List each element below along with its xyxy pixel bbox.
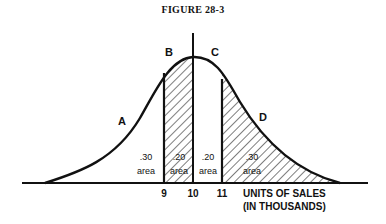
- curve-label-d: D: [259, 111, 267, 123]
- tick-11: 11: [217, 188, 228, 199]
- figure-title: FIGURE 28-3: [161, 4, 224, 15]
- x-axis-label-line1: UNITS OF SALES: [243, 188, 326, 199]
- region-3-value: .20: [202, 152, 215, 162]
- curve-label-a: A: [118, 115, 126, 127]
- curve-label-b: B: [165, 46, 173, 58]
- region-1-value: .30: [140, 152, 153, 162]
- tick-10: 10: [187, 188, 199, 199]
- curve-label-c: C: [211, 46, 219, 58]
- region-1-area-word: area: [137, 166, 155, 176]
- region-3-area-word: area: [199, 166, 217, 176]
- hatched-region-right-tail: [222, 40, 352, 183]
- x-axis-label-line2: (IN THOUSANDS): [243, 201, 326, 212]
- normal-distribution-figure: FIGURE 28-3 A B C D .30 area .20 area .2…: [0, 0, 386, 224]
- region-4-area-word: area: [243, 166, 261, 176]
- region-2-value: .20: [173, 152, 186, 162]
- region-4-value: .30: [246, 152, 259, 162]
- tick-9: 9: [161, 188, 167, 199]
- region-2-area-word: area: [170, 166, 188, 176]
